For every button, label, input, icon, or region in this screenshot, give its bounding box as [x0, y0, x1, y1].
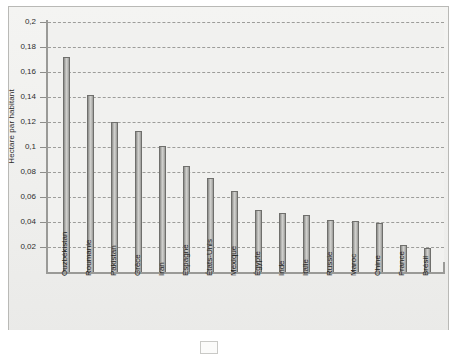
x-axis-tick-label: États-Unis [206, 239, 214, 276]
y-axis-tick-label: 0,08 [0, 167, 38, 176]
bar [135, 131, 142, 272]
y-axis-tick-label-text: 0,1 [25, 142, 36, 151]
y-axis-tick-label: 0,02 [0, 242, 38, 251]
y-axis-tick-label-text: 0,06 [20, 192, 36, 201]
y-axis-tick-label-text: 0,12 [20, 117, 36, 126]
y-axis-tick-label: 0,04 [0, 217, 38, 226]
y-axis-tick-label: 0,16 [0, 67, 38, 76]
bar [159, 146, 166, 272]
x-axis-tick-label: Brésil [422, 256, 430, 276]
y-axis-tick-label: 0,2 [0, 17, 38, 26]
page-bottom-fade [8, 330, 449, 338]
y-axis-tick-label-text: 0,02 [20, 242, 36, 251]
x-axis-tick-label: France [398, 251, 406, 276]
x-axis-tick-label: Égypte [254, 251, 262, 276]
y-axis-tick-label-text: 0,14 [20, 92, 36, 101]
x-axis-tick-label: Iran [158, 262, 166, 276]
x-axis-tick-label: Ouzbékistan [61, 232, 69, 276]
x-axis-tick-label: Mexique [230, 246, 238, 276]
y-axis-tick-label-text: 0,08 [20, 167, 36, 176]
y-axis-tick-label: 0,14 [0, 92, 38, 101]
bar-series [46, 22, 444, 272]
y-axis-tick-label-text: 0,16 [20, 67, 36, 76]
x-axis-tick-label: Espagne [182, 244, 190, 276]
y-axis-tick-label: 0,06 [0, 192, 38, 201]
y-axis-tick-label-text: 0,2 [25, 17, 36, 26]
page-artifact-square [200, 341, 218, 354]
x-axis-tick-label: Maroc [350, 254, 358, 276]
x-axis-tick-label: Chine [374, 255, 382, 276]
x-axis-tick-label: Roumanie [85, 240, 93, 276]
x-axis-tick-label: Russie [326, 252, 334, 276]
page-margin-left [0, 338, 186, 352]
y-axis-tick-label: 0,12 [0, 117, 38, 126]
page-margin-right [222, 338, 463, 352]
x-axis-tick-label: Grèce [134, 254, 142, 276]
y-axis-tick-label: 0,1 [0, 142, 38, 151]
y-axis-tick-label: 0,18 [0, 42, 38, 51]
x-axis-tick-label: Pakistan [110, 245, 118, 276]
y-axis-tick-label-text: 0,04 [20, 217, 36, 226]
x-axis-tick-label: Italie [302, 259, 310, 276]
x-axis-line [46, 272, 445, 274]
x-axis-tick-label: Inde [278, 260, 286, 276]
y-axis-tick-label-text: 0,18 [20, 42, 36, 51]
